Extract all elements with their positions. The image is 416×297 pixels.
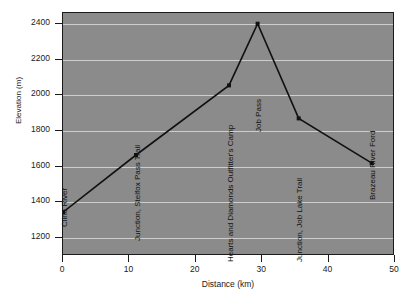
x-axis-tick (261, 255, 262, 262)
y-axis-tick-label: 1600 (2, 160, 50, 170)
x-axis-tick (128, 255, 129, 262)
x-axis-tick (195, 255, 196, 262)
x-axis-tick-label: 40 (308, 264, 348, 274)
y-axis-tick (55, 130, 62, 131)
y-axis-tick (55, 23, 62, 24)
x-axis-tick-label: 0 (42, 264, 82, 274)
y-axis-tick-label: 2000 (2, 88, 50, 98)
y-axis-tick (55, 59, 62, 60)
x-axis-tick-label: 10 (108, 264, 148, 274)
y-axis-tick (55, 237, 62, 238)
x-axis-tick-label: 50 (374, 264, 414, 274)
x-axis-tick-label: 20 (175, 264, 215, 274)
axis-decorations: 120014001600180020002200240001020304050 (0, 0, 416, 297)
x-axis-title: Distance (km) (62, 279, 394, 289)
x-axis-tick (394, 255, 395, 262)
y-axis-tick-label: 1200 (2, 231, 50, 241)
x-axis-tick-label: 30 (241, 264, 281, 274)
y-axis-tick-label: 1800 (2, 124, 50, 134)
y-axis-tick-label: 2400 (2, 17, 50, 27)
y-axis-tick-label: 1400 (2, 195, 50, 205)
x-axis-tick (62, 255, 63, 262)
y-axis-tick (55, 166, 62, 167)
y-axis-tick-label: 2200 (2, 53, 50, 63)
elevation-profile-chart: Elevation (m) 12001400160018002000220024… (0, 0, 416, 297)
x-axis-tick (328, 255, 329, 262)
y-axis-tick (55, 201, 62, 202)
y-axis-tick (55, 94, 62, 95)
